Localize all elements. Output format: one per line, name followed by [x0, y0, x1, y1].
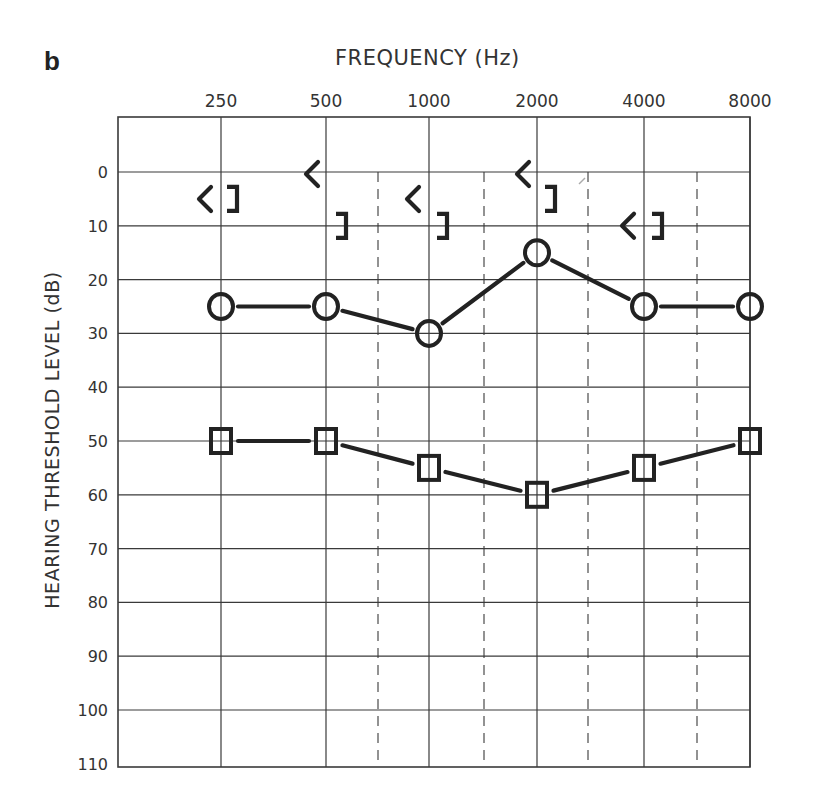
- bone-conduction-right-marker: [227, 187, 237, 211]
- y-tick-label: 80: [88, 593, 108, 612]
- y-tick-label: 50: [88, 432, 108, 451]
- y-tick-label: 20: [88, 271, 108, 290]
- y-tick-label: 40: [88, 378, 108, 397]
- bone-conduction-right-marker: [545, 187, 555, 211]
- y-tick-label: 70: [88, 540, 108, 559]
- x-tick-label: 4000: [622, 91, 665, 111]
- x-tick-label: 1000: [407, 91, 450, 111]
- bone-conduction-left-marker: [199, 187, 211, 211]
- y-tick-label: 60: [88, 486, 108, 505]
- series-connector: [443, 263, 524, 323]
- x-tick-label: 8000: [728, 91, 771, 111]
- y-tick-label: 30: [88, 324, 108, 343]
- bone-conduction-left-marker: [407, 187, 419, 211]
- x-tick-label: 250: [205, 91, 237, 111]
- series-connector: [553, 472, 627, 491]
- series-connector: [445, 472, 520, 491]
- y-tick-label: 10: [88, 217, 108, 236]
- audiogram-chart: 0102030405060708090100110250500100020004…: [0, 0, 826, 803]
- x-tick-label: 2000: [515, 91, 558, 111]
- y-tick-label: 110: [77, 755, 108, 774]
- y-tick-label: 100: [77, 701, 108, 720]
- bone-conduction-left-marker: [306, 162, 318, 186]
- stray-mark: [579, 178, 585, 184]
- bone-conduction-left-marker: [517, 162, 529, 186]
- y-tick-label: 90: [88, 647, 108, 666]
- y-tick-label: 0: [98, 163, 108, 182]
- x-tick-label: 500: [310, 91, 342, 111]
